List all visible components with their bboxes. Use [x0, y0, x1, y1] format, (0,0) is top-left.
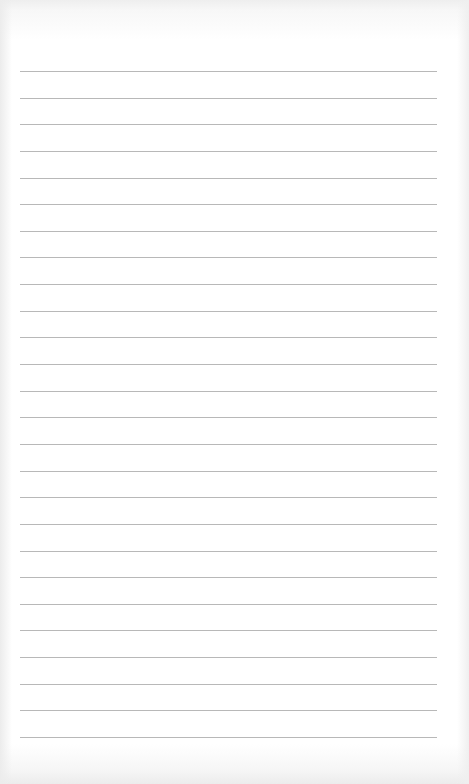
- ruled-line: [20, 551, 437, 552]
- ruled-line: [20, 151, 437, 152]
- ruled-line: [20, 257, 437, 258]
- ruled-line: [20, 630, 437, 631]
- ruled-line: [20, 684, 437, 685]
- ruled-line: [20, 364, 437, 365]
- ruled-line: [20, 284, 437, 285]
- ruled-line: [20, 124, 437, 125]
- ruled-line: [20, 391, 437, 392]
- ruled-line: [20, 737, 437, 738]
- ruled-line: [20, 231, 437, 232]
- ruled-line: [20, 710, 437, 711]
- ruled-line: [20, 471, 437, 472]
- ruled-line: [20, 337, 437, 338]
- ruled-line: [20, 444, 437, 445]
- ruled-line: [20, 604, 437, 605]
- ruled-line: [20, 311, 437, 312]
- lined-paper-sheet: [0, 0, 469, 784]
- ruled-line: [20, 657, 437, 658]
- ruled-line: [20, 204, 437, 205]
- ruled-line: [20, 577, 437, 578]
- ruled-line: [20, 497, 437, 498]
- ruled-line: [20, 98, 437, 99]
- ruled-line: [20, 417, 437, 418]
- ruled-line: [20, 524, 437, 525]
- ruled-line: [20, 178, 437, 179]
- ruled-line: [20, 71, 437, 72]
